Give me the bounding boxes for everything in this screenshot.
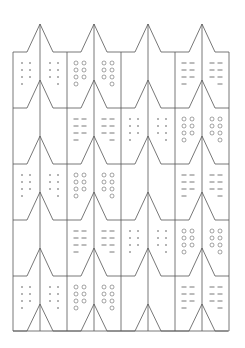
circle-mark xyxy=(218,138,222,142)
circle-mark xyxy=(82,292,86,296)
circle-mark xyxy=(74,285,78,289)
circle-mark xyxy=(218,131,222,135)
circle-mark xyxy=(74,75,78,79)
circle-mark xyxy=(110,194,114,198)
dot-mark xyxy=(57,307,59,309)
dot-mark xyxy=(57,300,59,302)
circle-mark xyxy=(82,187,86,191)
dot-mark xyxy=(57,62,59,64)
circle-mark xyxy=(110,68,114,72)
dot-mark xyxy=(21,286,23,288)
circle-mark xyxy=(110,299,114,303)
circle-mark xyxy=(182,229,186,233)
dot-mark xyxy=(137,118,139,120)
dot-mark xyxy=(165,139,167,141)
dot-mark xyxy=(129,251,131,253)
circle-mark xyxy=(74,306,78,310)
dot-mark xyxy=(49,174,51,176)
dot-mark xyxy=(165,125,167,127)
dot-mark xyxy=(29,188,31,190)
circle-mark xyxy=(74,180,78,184)
dot-mark xyxy=(165,132,167,134)
dot-mark xyxy=(29,174,31,176)
circle-mark xyxy=(74,82,78,86)
dot-mark xyxy=(29,300,31,302)
dot-mark xyxy=(21,62,23,64)
dot-mark xyxy=(29,62,31,64)
circle-mark xyxy=(218,250,222,254)
circle-mark xyxy=(110,75,114,79)
circle-mark xyxy=(82,299,86,303)
circle-mark xyxy=(110,173,114,177)
dot-mark xyxy=(57,188,59,190)
circle-mark xyxy=(182,243,186,247)
dot-mark xyxy=(129,244,131,246)
circle-mark xyxy=(190,243,194,247)
chevron-outline xyxy=(13,24,229,331)
dot-mark xyxy=(29,286,31,288)
chevron-profile xyxy=(13,24,229,52)
circle-mark xyxy=(110,292,114,296)
circle-mark xyxy=(218,124,222,128)
dot-mark xyxy=(137,237,139,239)
circle-mark xyxy=(210,124,214,128)
circle-mark xyxy=(110,61,114,65)
circle-mark xyxy=(102,187,106,191)
circle-mark xyxy=(102,68,106,72)
dot-mark xyxy=(21,76,23,78)
tessellation-diagram xyxy=(0,0,245,348)
circle-mark xyxy=(102,61,106,65)
dot-mark xyxy=(29,293,31,295)
dot-mark xyxy=(57,293,59,295)
dot-mark xyxy=(49,181,51,183)
dot-mark xyxy=(157,125,159,127)
circle-mark xyxy=(82,68,86,72)
dot-mark xyxy=(57,76,59,78)
circle-mark xyxy=(210,117,214,121)
circle-mark xyxy=(182,250,186,254)
dot-mark xyxy=(49,76,51,78)
dot-mark xyxy=(21,188,23,190)
circle-mark xyxy=(82,173,86,177)
circle-mark xyxy=(182,236,186,240)
dot-mark xyxy=(49,286,51,288)
dot-mark xyxy=(49,188,51,190)
circle-mark xyxy=(74,299,78,303)
circle-mark xyxy=(82,75,86,79)
circle-mark xyxy=(82,285,86,289)
dot-mark xyxy=(129,118,131,120)
dot-mark xyxy=(49,300,51,302)
circle-mark xyxy=(74,194,78,198)
circle-mark xyxy=(210,236,214,240)
circle-mark xyxy=(182,124,186,128)
circle-mark xyxy=(102,75,106,79)
circle-mark xyxy=(218,243,222,247)
dot-mark xyxy=(21,307,23,309)
dot-mark xyxy=(157,237,159,239)
dot-mark xyxy=(165,244,167,246)
dot-mark xyxy=(165,237,167,239)
dot-mark xyxy=(21,300,23,302)
circle-mark xyxy=(102,292,106,296)
dot-mark xyxy=(137,244,139,246)
dot-mark xyxy=(129,132,131,134)
dot-mark xyxy=(57,181,59,183)
circle-mark xyxy=(74,187,78,191)
circle-mark xyxy=(102,299,106,303)
dot-mark xyxy=(137,230,139,232)
dot-mark xyxy=(49,293,51,295)
circle-mark xyxy=(102,180,106,184)
circle-mark xyxy=(82,61,86,65)
dot-mark xyxy=(157,230,159,232)
dot-mark xyxy=(49,69,51,71)
dot-mark xyxy=(21,195,23,197)
dot-mark xyxy=(57,286,59,288)
circle-mark xyxy=(190,117,194,121)
dot-mark xyxy=(21,83,23,85)
dot-mark xyxy=(129,237,131,239)
dot-mark xyxy=(49,62,51,64)
dot-mark xyxy=(157,132,159,134)
dot-mark xyxy=(21,181,23,183)
circle-mark xyxy=(110,180,114,184)
circle-mark xyxy=(210,131,214,135)
